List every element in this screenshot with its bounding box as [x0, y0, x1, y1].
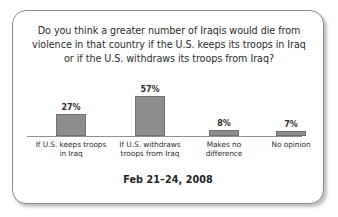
bar-group-2: 8% Makes no difference [191, 119, 257, 136]
bar-rect [56, 114, 86, 136]
bar-chart: 27% If U.S. keeps troops in Iraq 57% If … [13, 79, 323, 169]
bar-category-line: in Iraq [28, 149, 114, 158]
bar-category-label: No opinion [248, 136, 334, 149]
bar-value-label: 57% [112, 85, 188, 94]
bar-value-label: 8% [191, 119, 257, 128]
bar-group-0: 27% If U.S. keeps troops in Iraq [33, 103, 109, 136]
poll-question: Do you think a greater number of Iraqis … [27, 24, 311, 67]
bar-category-line: No opinion [248, 140, 334, 149]
bar-category-label: If U.S. keeps troops in Iraq [28, 136, 114, 159]
bar-group-3: 7% No opinion [258, 120, 324, 136]
bar-category-line: If U.S. keeps troops [28, 140, 114, 149]
bar-value-label: 7% [258, 120, 324, 129]
bar-rect [135, 96, 165, 136]
bar-group-1: 57% If U.S. withdraws troops from Iraq [112, 85, 188, 136]
bar-value-label: 27% [33, 103, 109, 112]
poll-card: Do you think a greater number of Iraqis … [12, 10, 324, 204]
bar-category-line: difference [181, 149, 267, 158]
poll-date-label: Feb 21–24, 2008 [13, 174, 323, 185]
